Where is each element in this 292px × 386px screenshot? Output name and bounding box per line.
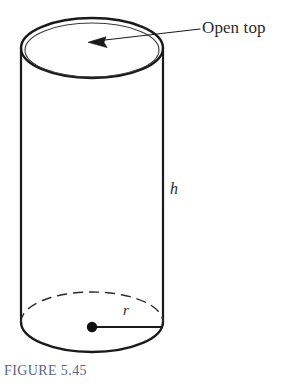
cylinder-drawing (0, 0, 292, 386)
figure-open-top-cylinder: Open top h r FIGURE 5.45 (0, 0, 292, 386)
open-top-arrowhead-icon (88, 37, 107, 48)
open-top-leader-line (92, 29, 200, 42)
cylinder-top-outer-rim (21, 18, 163, 78)
height-label: h (170, 180, 178, 198)
cylinder-bottom-hidden-arc (21, 292, 163, 322)
radius-label: r (123, 302, 129, 319)
figure-caption: FIGURE 5.45 (4, 363, 87, 379)
base-center-dot (87, 322, 97, 332)
cylinder-top-inner-rim (25, 23, 159, 77)
open-top-label: Open top (202, 18, 266, 38)
